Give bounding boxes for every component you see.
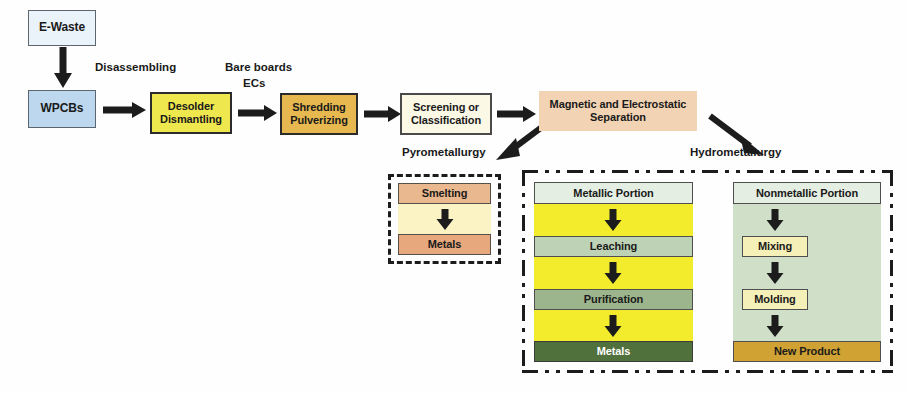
label-disassembling: Disassembling bbox=[95, 61, 176, 75]
node-shredding-line2: Pulverizing bbox=[290, 114, 348, 127]
label-hydrometallurgy: Hydrometallurgy bbox=[690, 146, 781, 160]
node-magsep-line1: Magnetic and Electrostatic bbox=[550, 98, 687, 111]
node-hydro-metals-label: Metals bbox=[597, 345, 631, 358]
node-wpcbs: WPCBs bbox=[28, 90, 96, 128]
node-smelting-label: Smelting bbox=[422, 187, 468, 200]
node-purification: Purification bbox=[534, 289, 693, 310]
node-leaching-label: Leaching bbox=[590, 240, 638, 253]
arrow-metallic-portion-to-leaching bbox=[603, 209, 623, 232]
node-mixing: Mixing bbox=[742, 236, 808, 257]
label-pyrometallurgy: Pyrometallurgy bbox=[402, 146, 486, 160]
arrow-shredding-to-screening bbox=[364, 106, 402, 122]
hydro-border-right bbox=[890, 170, 893, 373]
node-metallic-portion-label: Metallic Portion bbox=[573, 187, 653, 200]
arrow-nonmetallic-portion-to-mixing bbox=[765, 209, 785, 232]
node-wpcbs-label: WPCBs bbox=[41, 102, 84, 116]
node-pyro-metals-label: Metals bbox=[428, 238, 462, 251]
node-e-waste-label: E-Waste bbox=[39, 21, 85, 35]
node-shredding-pulverizing: Shredding Pulverizing bbox=[280, 93, 358, 135]
arrow-smelting-to-metals bbox=[435, 209, 455, 231]
arrow-molding-to-new-product bbox=[765, 315, 785, 338]
arrow-mixing-to-molding bbox=[765, 262, 785, 285]
node-new-product: New Product bbox=[733, 341, 881, 362]
nonmetallic-column-panel bbox=[733, 182, 881, 359]
arrow-purification-to-metals bbox=[603, 315, 623, 338]
node-desolder-line2: Dismantling bbox=[160, 113, 222, 126]
hydro-border-bottom bbox=[522, 370, 893, 373]
flowchart-canvas: E-Waste WPCBs Disassembling Desolder Dis… bbox=[0, 0, 907, 393]
node-hydro-metals: Metals bbox=[534, 341, 693, 362]
node-magsep-line2: Separation bbox=[590, 111, 646, 124]
node-metallic-portion: Metallic Portion bbox=[534, 182, 693, 204]
label-ecs: ECs bbox=[243, 77, 265, 91]
node-screening-classification: Screening or Classification bbox=[400, 93, 492, 135]
node-pyro-metals: Metals bbox=[398, 234, 491, 255]
arrow-leaching-to-purification bbox=[603, 262, 623, 285]
node-leaching: Leaching bbox=[534, 236, 693, 257]
node-purification-label: Purification bbox=[584, 293, 643, 306]
node-screening-line2: Classification bbox=[411, 114, 481, 127]
node-molding-label: Molding bbox=[754, 293, 795, 306]
node-nonmetallic-portion-label: Nonmetallic Portion bbox=[756, 187, 858, 200]
node-e-waste: E-Waste bbox=[28, 10, 96, 46]
node-mixing-label: Mixing bbox=[758, 240, 792, 253]
node-nonmetallic-portion: Nonmetallic Portion bbox=[733, 182, 881, 204]
hydro-border-left bbox=[522, 170, 525, 373]
node-smelting: Smelting bbox=[398, 183, 491, 204]
arrow-wpcbs-to-desolder bbox=[103, 102, 147, 118]
node-desolder-line1: Desolder bbox=[168, 100, 214, 113]
node-molding: Molding bbox=[742, 289, 808, 310]
arrow-desolder-to-shredding bbox=[238, 105, 278, 121]
arrow-ewaste-to-wpcbs bbox=[52, 47, 74, 89]
label-bare-boards: Bare boards bbox=[225, 61, 292, 75]
node-desolder-dismantling: Desolder Dismantling bbox=[150, 92, 232, 134]
hydro-border-top bbox=[522, 170, 893, 173]
node-screening-line1: Screening or bbox=[413, 101, 479, 114]
node-shredding-line1: Shredding bbox=[292, 101, 346, 114]
node-new-product-label: New Product bbox=[774, 345, 840, 358]
node-magnetic-electrostatic-separation: Magnetic and Electrostatic Separation bbox=[539, 91, 697, 131]
